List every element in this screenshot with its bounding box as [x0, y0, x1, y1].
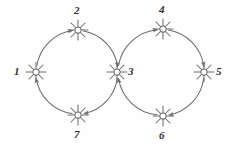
node-label-5: 5: [216, 66, 222, 77]
node-label-6: 6: [159, 130, 165, 141]
node-4[interactable]: [153, 19, 173, 39]
node-2[interactable]: [68, 20, 88, 40]
edge-3-to-7: [84, 78, 117, 114]
starburst-icon: [26, 62, 46, 82]
node-3[interactable]: [107, 62, 127, 82]
node-7[interactable]: [68, 105, 88, 125]
diagram-canvas: 1 2 3 4 5 6 7: [0, 0, 231, 151]
node-label-2: 2: [74, 5, 80, 16]
edge-1-to-2: [37, 31, 73, 66]
node-1[interactable]: [26, 62, 46, 82]
edge-2-to-3: [84, 31, 118, 67]
starburst-icon: [153, 19, 173, 39]
node-glyph-layer: [26, 19, 214, 126]
starburst-icon: [68, 20, 88, 40]
edge-5-to-6: [169, 78, 204, 115]
node-label-4: 4: [159, 4, 165, 15]
node-label-7: 7: [74, 129, 80, 140]
node-5[interactable]: [194, 62, 214, 82]
starburst-icon: [107, 62, 127, 82]
node-6[interactable]: [153, 106, 173, 126]
starburst-icon: [68, 105, 88, 125]
node-label-1: 1: [14, 66, 20, 77]
node-label-3: 3: [128, 66, 134, 77]
starburst-icon: [194, 62, 214, 82]
edge-7-to-1: [36, 78, 72, 113]
starburst-icon: [153, 106, 173, 126]
edge-6-to-3: [119, 79, 157, 115]
edge-4-to-5: [169, 30, 204, 66]
graph-figure: [0, 0, 231, 151]
left-cycle-arcs: [36, 31, 117, 114]
edge-3-to-4: [119, 30, 158, 66]
